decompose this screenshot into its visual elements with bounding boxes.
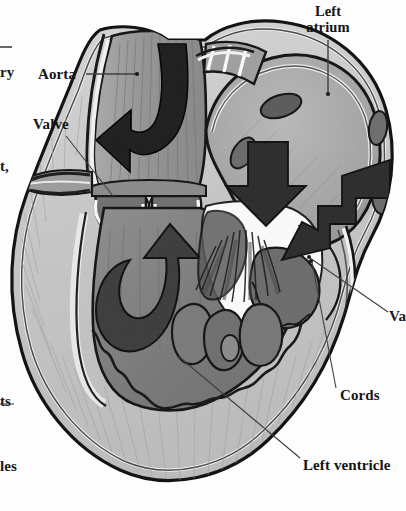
- label-aorta: Aorta: [38, 66, 76, 82]
- label-left-atrium: Left atrium: [281, 4, 375, 35]
- leader-dot-aorta: [135, 72, 139, 76]
- label-valve: Valve: [33, 116, 69, 132]
- label-clipped-pulmonary-artery: ry: [0, 64, 14, 80]
- label-clipped-muscles: les: [0, 458, 17, 474]
- figure-canvas: Aorta Valve Left atrium Cords Left ventr…: [0, 0, 406, 511]
- leader-dot-valve-right: [307, 255, 311, 259]
- label-clipped-papillary: ts: [0, 393, 11, 409]
- label-cords: Cords: [340, 387, 380, 403]
- label-clipped-left: t,: [0, 158, 9, 174]
- label-clipped-valve-right: Va: [389, 308, 406, 324]
- leader-dot-left-atrium: [326, 92, 330, 96]
- label-left-ventricle: Left ventricle: [303, 457, 391, 473]
